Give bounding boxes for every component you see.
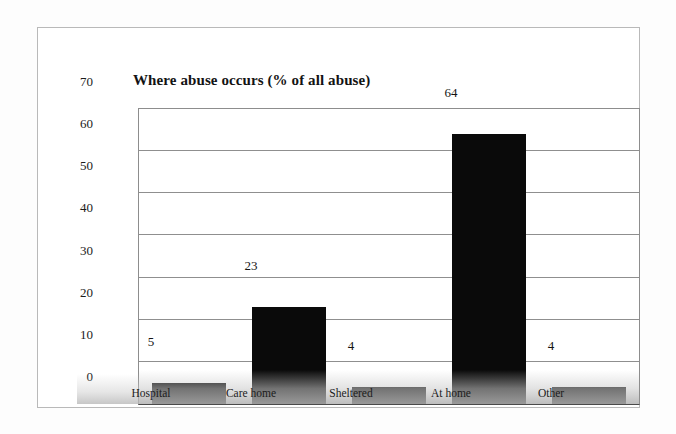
plot-area — [138, 108, 640, 405]
y-axis-tick-label: 0 — [59, 370, 93, 383]
gridline — [139, 319, 639, 320]
y-axis-tick-label: 30 — [59, 244, 93, 257]
y-axis-tick-label: 20 — [59, 286, 93, 299]
scanned-page: Where abuse occurs (% of all abuse) 0102… — [0, 0, 676, 434]
bar-value-label: 5 — [121, 335, 181, 348]
x-axis-category-label: At home — [401, 388, 501, 400]
y-axis-tick-label: 70 — [59, 75, 93, 88]
y-axis-tick-label: 60 — [59, 117, 93, 130]
bar-value-label: 64 — [421, 86, 481, 99]
chart-title: Where abuse occurs (% of all abuse) — [133, 72, 370, 89]
x-axis-category-label: Hospital — [101, 388, 201, 400]
x-axis-category-label: Other — [501, 388, 601, 400]
gridline — [139, 150, 639, 151]
bar-value-label: 4 — [321, 339, 381, 352]
figure-frame: Where abuse occurs (% of all abuse) 0102… — [37, 27, 640, 408]
gridline — [139, 192, 639, 193]
bar — [452, 134, 526, 404]
gridline — [139, 234, 639, 235]
y-axis-tick-label: 50 — [59, 159, 93, 172]
x-axis-category-label: Sheltered — [301, 388, 401, 400]
x-axis-category-label: Care home — [201, 388, 301, 400]
bar-value-label: 23 — [221, 259, 281, 272]
gridline — [139, 361, 639, 362]
gridline — [139, 277, 639, 278]
y-axis-tick-label: 40 — [59, 201, 93, 214]
y-axis-tick-label: 10 — [59, 328, 93, 341]
bar-value-label: 4 — [521, 339, 581, 352]
